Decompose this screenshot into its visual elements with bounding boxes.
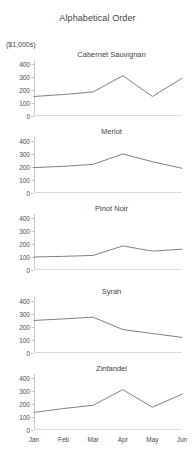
series-line: [34, 154, 182, 168]
y-axis-tick-label: 100: [19, 99, 30, 106]
y-axis-unit-label: ($1,000s): [6, 41, 36, 48]
x-axis-tick-label: Apr: [118, 436, 128, 443]
y-axis-tick-label: 400: [19, 297, 30, 304]
y-axis-tick-label: 300: [19, 73, 30, 80]
y-axis-tick-label: 200: [19, 163, 30, 170]
series-line-chart: [34, 214, 182, 270]
y-axis-tick-label: 200: [19, 400, 30, 407]
panel-subtitle: Zinfandel: [34, 364, 189, 373]
x-axis-tick-label: Jun: [177, 436, 187, 443]
series-line: [34, 246, 182, 257]
y-axis-tick-label: 100: [19, 413, 30, 420]
y-axis-tick-label: 0: [26, 113, 30, 120]
x-axis-tick-label: Mar: [88, 436, 99, 443]
plot-area: 0100200300400: [34, 374, 182, 430]
y-axis-tick-label: 200: [19, 323, 30, 330]
y-axis-tick-label: 400: [19, 137, 30, 144]
y-axis-tick-label: 0: [26, 267, 30, 274]
plot-area: 0100200300400: [34, 214, 182, 270]
x-axis-tick-label: Jan: [29, 436, 39, 443]
y-axis-tick-label: 0: [26, 190, 30, 197]
x-axis-tick-label: Feb: [58, 436, 69, 443]
panel-subtitle: Cabernet Sauvignan: [34, 50, 189, 59]
y-axis-tick-label: 200: [19, 86, 30, 93]
y-axis-tick-label: 300: [19, 150, 30, 157]
panel-subtitle: Syrah: [34, 287, 189, 296]
plot-area: 0100200300400: [34, 60, 182, 116]
series-line-chart: [34, 297, 182, 353]
series-line-chart: [34, 60, 182, 116]
series-line: [34, 76, 182, 97]
y-axis-tick-label: 300: [19, 387, 30, 394]
panel-subtitle: Merlot: [34, 127, 189, 136]
series-line: [34, 317, 182, 337]
chart-title: Alphabetical Order: [0, 13, 195, 23]
y-axis-tick-mark: [31, 270, 34, 271]
y-axis-tick-mark: [31, 430, 34, 431]
y-axis-tick-label: 100: [19, 336, 30, 343]
small-multiples-chart: Alphabetical Order ($1,000s) Cabernet Sa…: [0, 0, 195, 465]
plot-area: 0100200300400: [34, 137, 182, 193]
y-axis-tick-label: 300: [19, 227, 30, 234]
y-axis-tick-label: 0: [26, 350, 30, 357]
y-axis-tick-label: 300: [19, 310, 30, 317]
y-axis-tick-label: 0: [26, 427, 30, 434]
y-axis-tick-mark: [31, 116, 34, 117]
y-axis-tick-label: 200: [19, 240, 30, 247]
y-axis-tick-label: 400: [19, 214, 30, 221]
series-line-chart: [34, 374, 182, 430]
y-axis-tick-label: 400: [19, 60, 30, 67]
series-line: [34, 390, 182, 413]
series-line-chart: [34, 137, 182, 193]
x-axis-tick-labels: JanFebMarAprMayJun: [34, 436, 182, 448]
panel-subtitle: Pinot Noir: [34, 204, 189, 213]
plot-area: 0100200300400: [34, 297, 182, 353]
y-axis-tick-mark: [31, 353, 34, 354]
x-axis-tick-label: May: [146, 436, 158, 443]
y-axis-tick-label: 100: [19, 253, 30, 260]
y-axis-tick-label: 100: [19, 176, 30, 183]
y-axis-tick-label: 400: [19, 374, 30, 381]
y-axis-tick-mark: [31, 193, 34, 194]
